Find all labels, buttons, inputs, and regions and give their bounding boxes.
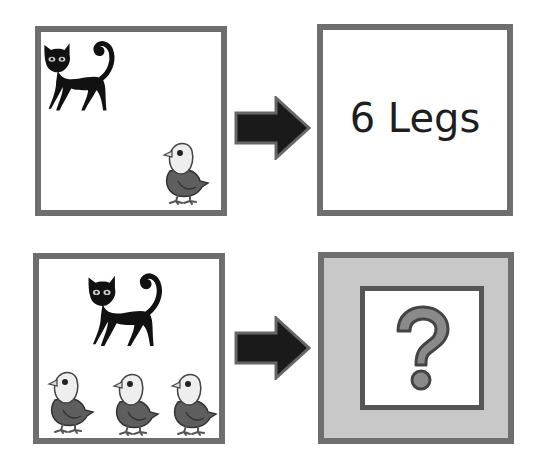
bird-icon	[168, 365, 218, 437]
answer-frame	[360, 286, 484, 410]
right-arrow-icon	[233, 316, 313, 380]
bird-icon	[45, 363, 95, 435]
cat-icon	[41, 36, 125, 116]
output-box-row1: 6 Legs	[317, 24, 513, 216]
input-box-row1	[35, 26, 227, 216]
right-arrow-icon	[233, 96, 313, 160]
bird-icon	[110, 365, 160, 437]
output-legs-label: 6 Legs	[323, 95, 507, 141]
bird-icon	[159, 135, 211, 205]
input-box-row2	[33, 253, 225, 444]
output-box-row2	[318, 252, 514, 444]
cat-icon	[85, 269, 173, 351]
question-mark-icon	[390, 303, 456, 395]
